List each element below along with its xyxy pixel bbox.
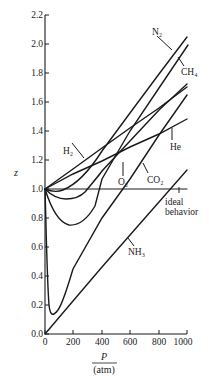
label-he: He xyxy=(170,142,181,152)
label-nh3: NH₃ xyxy=(128,247,145,257)
y-tick-label: 1.0 xyxy=(31,184,43,194)
y-tick-label: 0.6 xyxy=(31,242,43,252)
y-tick-labels: 0.0 0.2 0.4 0.6 0.8 1.0 1.2 1.4 1.6 1.8 … xyxy=(31,10,43,339)
label-n2: N₂ xyxy=(152,27,162,37)
label-o2: O₂ xyxy=(118,177,128,187)
arrow-co2 xyxy=(143,163,148,173)
curve-nh3 xyxy=(45,170,187,334)
label-ideal-2: behavior xyxy=(165,207,199,217)
y-axis-title: z xyxy=(13,167,18,178)
y-tick-label: 1.6 xyxy=(31,97,43,107)
curve-o2 xyxy=(45,84,187,199)
label-ch4: CH₄ xyxy=(181,67,198,77)
curve-labels: N₂ CH₄ H₂ He O₂ CO₂ ideal behavior NH₃ xyxy=(63,27,199,257)
y-tick-label: 2.2 xyxy=(31,10,43,20)
arrow-n2 xyxy=(157,36,172,50)
x-ticks xyxy=(45,330,187,334)
x-tick-label: 1000 xyxy=(174,337,193,347)
y-tick-label: 2.0 xyxy=(31,39,43,49)
curves xyxy=(45,37,188,334)
x-axis-title: P (atm) xyxy=(92,351,117,376)
compressibility-chart: 0.0 0.2 0.4 0.6 0.8 1.0 1.2 1.4 1.6 1.8 … xyxy=(0,0,209,379)
curve-n2 xyxy=(45,37,187,191)
y-tick-label: 1.4 xyxy=(31,126,43,136)
label-co2: CO₂ xyxy=(147,175,164,185)
arrow-h2 xyxy=(72,143,84,158)
y-tick-label: 0.8 xyxy=(31,213,43,223)
x-tick-label: 600 xyxy=(123,337,138,347)
x-tick-label: 200 xyxy=(66,337,81,347)
label-h2: H₂ xyxy=(63,146,73,156)
x-axis-title-numerator: P xyxy=(100,351,107,362)
y-tick-label: 1.8 xyxy=(31,68,43,78)
y-tick-label: 1.2 xyxy=(31,155,43,165)
arrow-nh3 xyxy=(128,238,134,246)
x-tick-label: 400 xyxy=(95,337,110,347)
x-axis-title-denominator: (atm) xyxy=(93,364,115,376)
y-tick-label: 0.0 xyxy=(31,329,43,339)
x-tick-labels: 0 200 400 600 800 1000 xyxy=(43,337,193,347)
arrow-ch4 xyxy=(178,57,184,66)
y-tick-label: 0.4 xyxy=(31,271,43,281)
curve-h2 xyxy=(45,87,187,189)
x-tick-label: 800 xyxy=(152,337,167,347)
y-tick-label: 0.2 xyxy=(31,300,43,310)
x-tick-label: 0 xyxy=(43,337,48,347)
label-ideal-1: ideal xyxy=(165,197,184,207)
